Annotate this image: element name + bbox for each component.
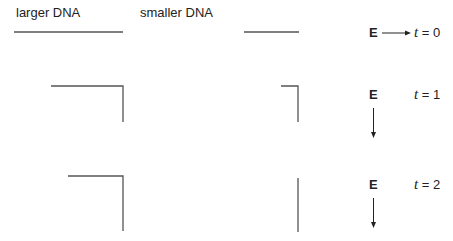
down-arrow-icon	[371, 108, 376, 138]
enzyme-label-t0: E	[369, 25, 378, 40]
enzyme-label-t2: E	[369, 177, 378, 192]
larger-dna-t2	[68, 176, 123, 231]
dna-diagram	[0, 0, 453, 241]
smaller-dna-t1	[281, 86, 298, 122]
time-label-t2: t = 2	[414, 176, 440, 193]
time-value: = 2	[418, 177, 440, 192]
time-value: = 0	[418, 25, 440, 40]
time-value: = 1	[418, 87, 440, 102]
time-label-t1: t = 1	[414, 86, 440, 103]
enzyme-label-t1: E	[369, 87, 378, 102]
time-label-t0: t = 0	[414, 24, 440, 41]
right-arrow-icon	[382, 31, 411, 36]
larger-dna-t1	[51, 86, 123, 122]
down-arrow-icon	[371, 198, 376, 228]
